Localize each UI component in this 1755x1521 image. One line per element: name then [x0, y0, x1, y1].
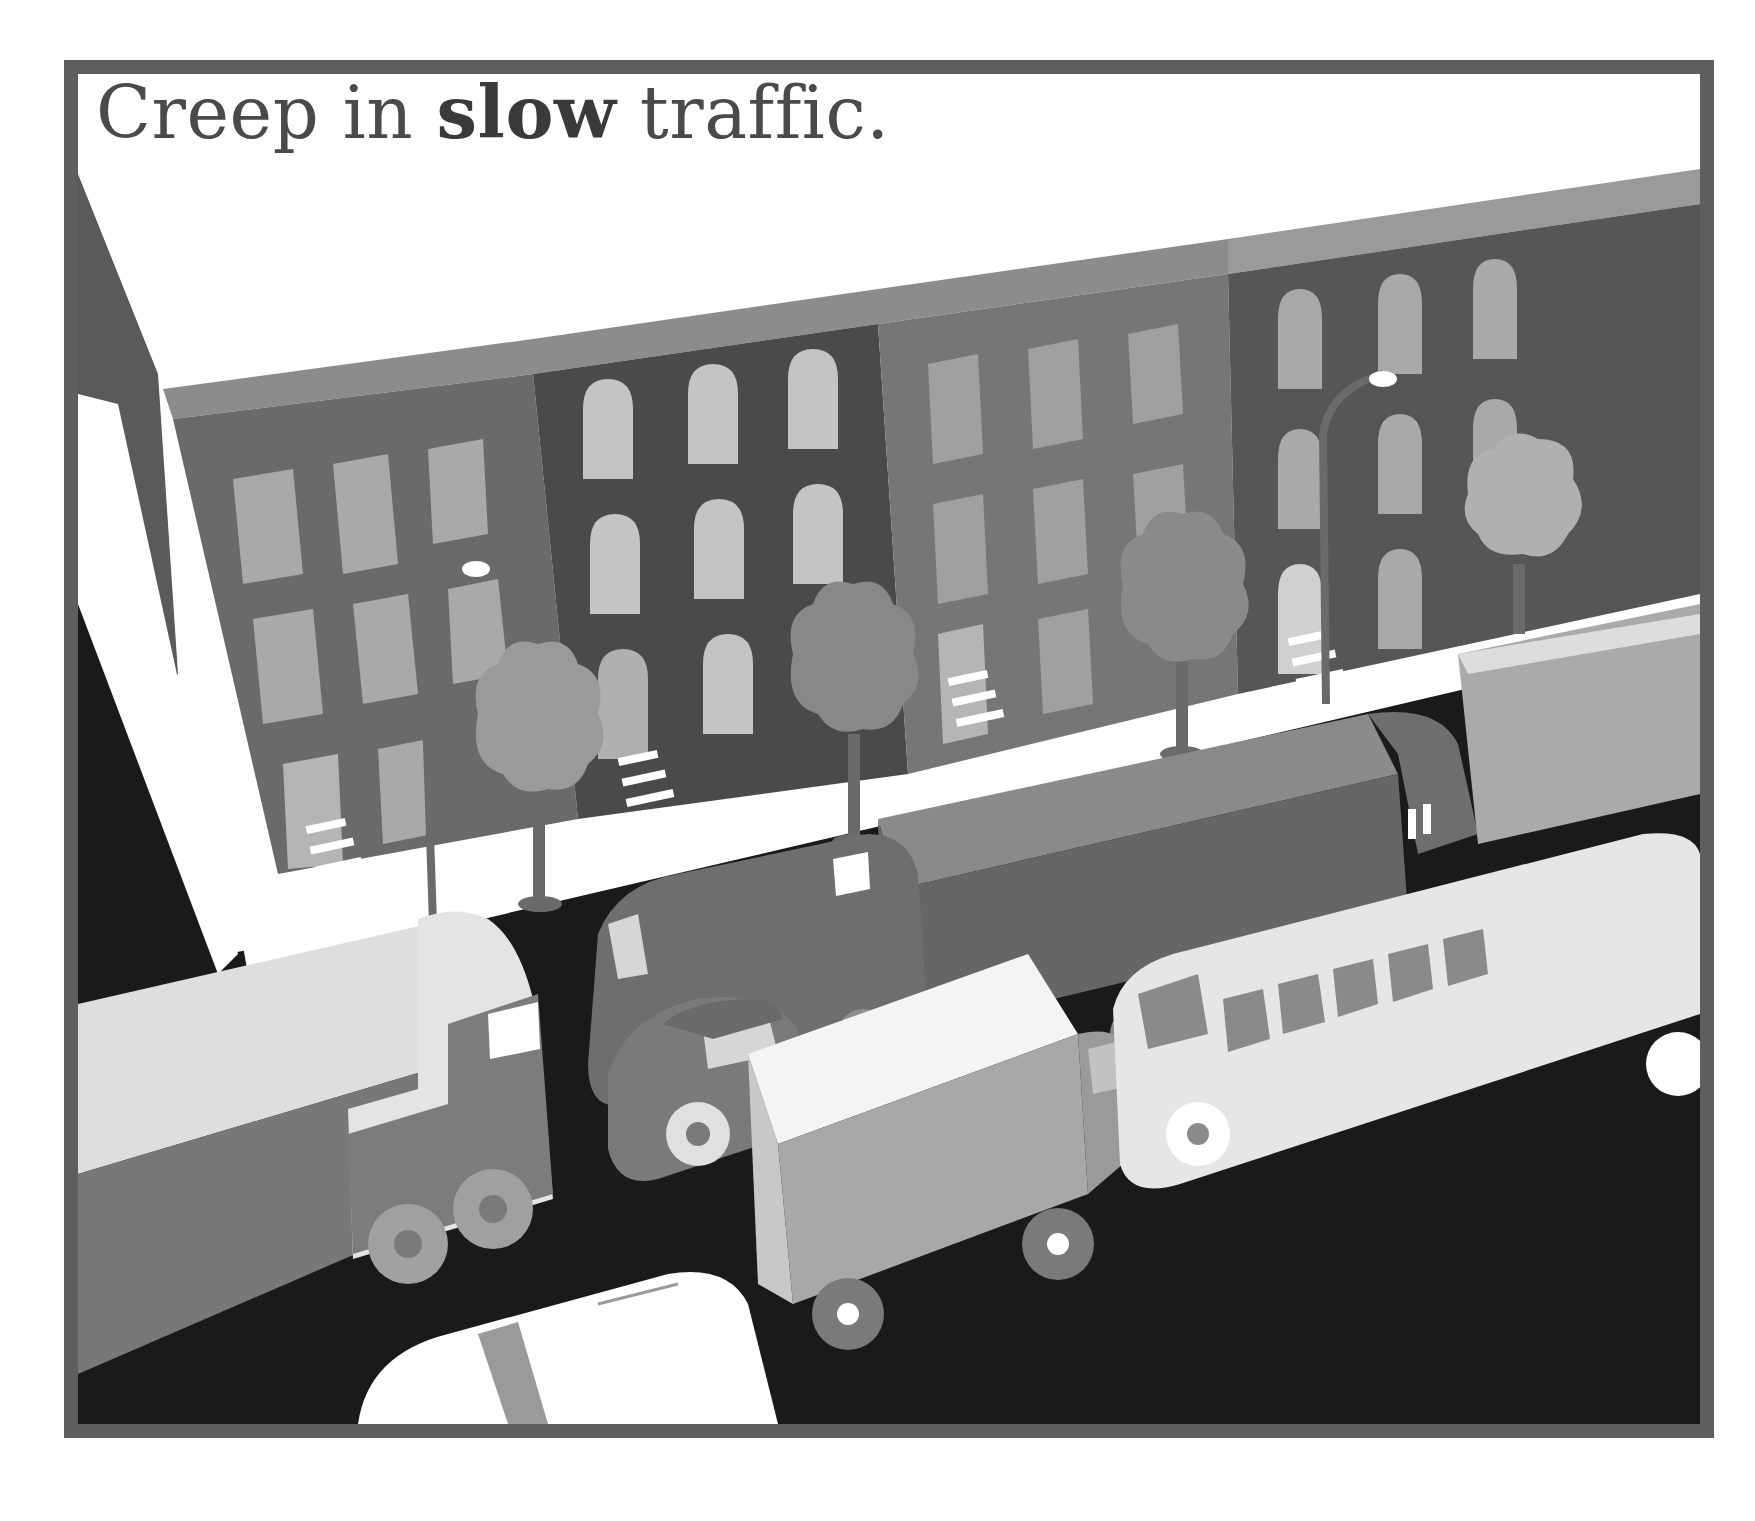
caption-text-before: Creep in — [96, 71, 437, 155]
caption-emphasis: slow — [437, 70, 617, 155]
page-caption: Creep in slow traffic. — [96, 70, 890, 155]
street-scene-illustration — [78, 74, 1700, 1424]
caption-text-after: traffic. — [616, 71, 889, 155]
illustration-frame — [64, 60, 1714, 1438]
book-page: Creep in slow traffic. — [0, 0, 1755, 1521]
